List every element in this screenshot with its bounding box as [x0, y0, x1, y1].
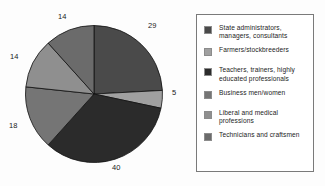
legend-label-2: Farmers/stockbreeders	[219, 46, 289, 54]
legend-list: State administrators, managers, consulta…	[204, 24, 310, 151]
pie-chart-area: 14 29 5 40 18 14	[0, 0, 190, 186]
chart-page: 14 29 5 40 18 14 State administrators, m…	[0, 0, 325, 186]
legend-box: State administrators, managers, consulta…	[196, 14, 314, 172]
pie-slice-value-label-4: 18	[9, 121, 18, 130]
legend-swatch-icon-2	[204, 48, 212, 56]
legend-item-business-men-women[interactable]: Business men/women	[204, 89, 310, 103]
pie-slice-value-label-6: 14	[58, 12, 67, 21]
legend-swatch-icon-4	[204, 91, 212, 99]
legend-swatch-icon-3	[204, 68, 212, 76]
pie-slice-value-label-1: 29	[148, 21, 157, 30]
legend-item-state-administrators[interactable]: State administrators, managers, consulta…	[204, 24, 310, 40]
legend-swatch-icon-1	[204, 26, 212, 34]
legend-label-6: Technicians and craftsmen	[219, 131, 300, 139]
legend-label-5: Liberal and medical professions	[219, 109, 310, 125]
pie-slice-value-label-2: 5	[172, 88, 176, 97]
legend-item-liberal-medical[interactable]: Liberal and medical professions	[204, 109, 310, 125]
legend-label-3: Teachers, trainers, highly educated prof…	[219, 66, 310, 82]
legend-item-technicians-craftsmen[interactable]: Technicians and craftsmen	[204, 131, 310, 145]
legend-swatch-icon-6	[204, 133, 212, 141]
legend-swatch-icon-5	[204, 111, 212, 119]
pie-chart-svg	[24, 24, 164, 164]
pie-slice-1[interactable]	[94, 26, 162, 95]
legend-label-1: State administrators, managers, consulta…	[219, 24, 310, 40]
legend-item-farmers-stockbreeders[interactable]: Farmers/stockbreeders	[204, 46, 310, 60]
pie-slice-value-label-5: 14	[10, 52, 19, 61]
pie-slice-value-label-3: 40	[112, 163, 121, 172]
legend-item-teachers-trainers[interactable]: Teachers, trainers, highly educated prof…	[204, 66, 310, 82]
pie-slices-group	[26, 26, 163, 163]
legend-label-4: Business men/women	[219, 89, 285, 97]
